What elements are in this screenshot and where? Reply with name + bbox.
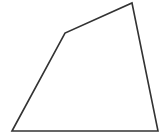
quadrilateral-figure — [0, 0, 165, 136]
diagram-canvas — [0, 0, 165, 136]
quadrilateral-shape — [12, 3, 158, 131]
